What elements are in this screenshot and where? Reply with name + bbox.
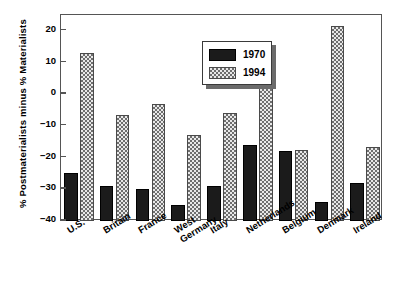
legend-label-1970: 1970 xyxy=(243,49,265,60)
bar-1994-netherlands xyxy=(259,72,273,221)
chart-legend: 1970 1994 xyxy=(202,41,272,85)
y-tick-mark xyxy=(60,124,66,126)
y-tick-mark xyxy=(60,219,66,221)
y-tick-mark xyxy=(60,156,66,158)
y-axis-label: % Postmaterialists minus % Materialists xyxy=(17,19,28,209)
bar-1994-denmark xyxy=(331,26,345,221)
y-tick-mark xyxy=(60,187,66,189)
legend-item-1994: 1994 xyxy=(209,66,265,79)
y-tick-label: −10 xyxy=(40,118,56,129)
y-tick-label: −40 xyxy=(40,213,56,224)
y-tick-label: 0 xyxy=(51,86,56,97)
bar-chart: % Postmaterialists minus % Materialists … xyxy=(0,0,394,284)
y-tick-mark xyxy=(60,61,66,63)
bar-1994-italy xyxy=(223,113,237,221)
bar-1970-britain xyxy=(100,186,114,221)
y-tick-label: 20 xyxy=(45,23,56,34)
y-tick-mark xyxy=(60,29,66,31)
bar-1970-netherlands xyxy=(243,145,257,221)
legend-swatch-1970-icon xyxy=(209,49,236,61)
legend-label-1994: 1994 xyxy=(243,67,265,78)
bar-1994-france xyxy=(152,104,166,221)
y-tick-label: 10 xyxy=(45,55,56,66)
y-tick-mark xyxy=(60,92,66,94)
y-tick-label: −30 xyxy=(40,181,56,192)
bar-1970-us xyxy=(64,173,78,221)
plot-area: 1970 1994 xyxy=(60,14,382,220)
y-tick-label: −20 xyxy=(40,150,56,161)
bar-1994-britain xyxy=(116,115,130,221)
bar-1970-france xyxy=(136,189,150,221)
legend-item-1970: 1970 xyxy=(209,48,265,61)
legend-swatch-1994-icon xyxy=(209,67,236,79)
bar-1994-us xyxy=(80,53,94,221)
